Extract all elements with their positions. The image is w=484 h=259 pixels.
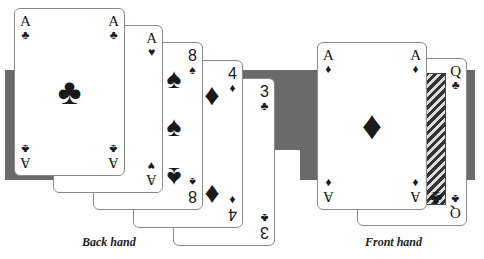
rank: A bbox=[410, 189, 421, 204]
card-index-top-left: A ♣ bbox=[20, 14, 31, 41]
front-hand-label: Front hand bbox=[365, 235, 422, 250]
back-hand-label: Back hand bbox=[82, 235, 136, 250]
diamond-icon: ♦ bbox=[323, 177, 334, 189]
diamond-icon: ♦ bbox=[228, 194, 237, 206]
card-index-bottom: 4 ♦ bbox=[228, 194, 237, 222]
rank: Q bbox=[450, 205, 461, 220]
card-index-bottom: A ♥ bbox=[146, 160, 157, 187]
diamond-icon: ♦ bbox=[204, 80, 219, 110]
diamond-icon: ♦ bbox=[204, 180, 219, 210]
card-index-bottom-right: A ♦ bbox=[410, 177, 421, 204]
club-icon: ♣ bbox=[429, 189, 442, 209]
card-index-top-left: A ♦ bbox=[323, 48, 334, 75]
rank: Q bbox=[450, 64, 461, 79]
rank: A bbox=[20, 14, 31, 29]
card-index-bottom-right: A ♣ bbox=[108, 143, 119, 170]
club-icon: ♣ bbox=[58, 74, 82, 110]
card-index-bottom-left: A ♦ bbox=[323, 177, 334, 204]
rank: 3 bbox=[260, 224, 269, 240]
card-index-top: 4 ♦ bbox=[228, 66, 237, 94]
club-icon: ♣ bbox=[108, 29, 119, 41]
club-icon: ♣ bbox=[260, 100, 269, 112]
spade-icon: ♠ bbox=[167, 163, 182, 191]
rank: A bbox=[146, 31, 157, 46]
spade-icon: ♠ bbox=[188, 176, 197, 188]
rank: 8 bbox=[188, 188, 197, 204]
spade-icon: ♠ bbox=[167, 65, 182, 93]
diamond-icon: ♦ bbox=[410, 63, 421, 75]
rank: 3 bbox=[260, 84, 269, 100]
club-icon: ♣ bbox=[450, 79, 461, 91]
diamond-icon: ♦ bbox=[228, 82, 237, 94]
card-index-bottom: 8 ♠ bbox=[188, 176, 197, 204]
club-icon: ♣ bbox=[20, 143, 31, 155]
club-icon: ♣ bbox=[260, 212, 269, 224]
card-ace-of-diamonds[interactable]: A ♦ A ♦ A ♦ A ♦ ♦ bbox=[317, 42, 427, 210]
diamond-icon: ♦ bbox=[410, 177, 421, 189]
rank: A bbox=[20, 155, 31, 170]
card-index-top: 3 ♣ bbox=[260, 84, 269, 112]
rank: A bbox=[108, 155, 119, 170]
card-index-top: Q ♣ bbox=[450, 64, 461, 91]
rank: 8 bbox=[188, 48, 197, 64]
spade-icon: ♠ bbox=[188, 64, 197, 76]
heart-icon: ♥ bbox=[146, 160, 157, 172]
rank: A bbox=[323, 189, 334, 204]
card-index-bottom-left: A ♣ bbox=[20, 143, 31, 170]
card-index-top-right: A ♦ bbox=[410, 48, 421, 75]
card-index-bottom: Q ♣ bbox=[450, 193, 461, 220]
card-index-top: A ♥ bbox=[146, 31, 157, 58]
spade-icon: ♠ bbox=[167, 113, 182, 141]
rank: A bbox=[410, 48, 421, 63]
club-icon: ♣ bbox=[450, 193, 461, 205]
club-icon: ♣ bbox=[108, 143, 119, 155]
diamond-icon: ♦ bbox=[362, 106, 382, 146]
rank: 4 bbox=[228, 66, 237, 82]
diamond-icon: ♦ bbox=[323, 63, 334, 75]
club-icon: ♣ bbox=[20, 29, 31, 41]
rank: 4 bbox=[228, 206, 237, 222]
rank: A bbox=[108, 14, 119, 29]
rank: A bbox=[146, 172, 157, 187]
heart-icon: ♥ bbox=[146, 46, 157, 58]
card-index-top-right: A ♣ bbox=[108, 14, 119, 41]
card-index-top: 8 ♠ bbox=[188, 48, 197, 76]
queen-portrait bbox=[424, 73, 446, 205]
rank: A bbox=[323, 48, 334, 63]
card-index-bottom: 3 ♣ bbox=[260, 212, 269, 240]
card-ace-of-clubs[interactable]: A ♣ A ♣ A ♣ A ♣ ♣ bbox=[14, 8, 125, 176]
